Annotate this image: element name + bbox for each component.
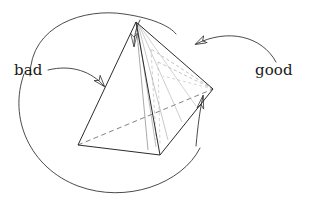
bad-short-arrow (48, 68, 104, 86)
tetrahedron-edges (78, 22, 213, 155)
edge-bottom-right (160, 89, 213, 155)
sliver-fan-lines (136, 22, 196, 150)
tetrahedron-sliver-svg (0, 0, 312, 210)
label-good: good (255, 63, 293, 78)
dashed-interior-fan (151, 49, 213, 146)
hidden-edge-left-right (78, 89, 213, 145)
bad-long-arc-path (30, 13, 176, 76)
bad-long-arc-group (19, 13, 200, 193)
edge-apex-left (78, 22, 136, 145)
edge-apex-bottom (136, 22, 160, 155)
figure-root: bad good (0, 0, 312, 210)
bad-long-arc-lower-path (19, 74, 200, 193)
label-bad: bad (14, 63, 42, 78)
good-top-arrow (196, 36, 276, 62)
